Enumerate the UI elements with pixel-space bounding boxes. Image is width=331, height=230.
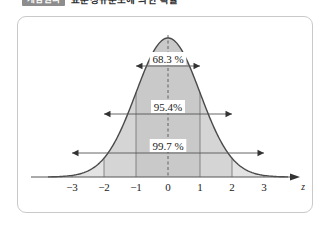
figure-card: 68.3 % 95.4% 99.7 % −3−2−10123 z (17, 16, 313, 213)
label-68-percent: 68.3 % (152, 53, 183, 65)
tick-label-4: 1 (197, 181, 203, 193)
tick-label-3: 0 (165, 181, 171, 193)
x-axis-tick-labels: −3−2−10123 (66, 181, 267, 193)
heading-badge: 개념원리 (22, 0, 65, 6)
tick-label-5: 2 (229, 181, 235, 193)
label-95-percent: 95.4% (154, 101, 182, 113)
normal-distribution-chart: 68.3 % 95.4% 99.7 % −3−2−10123 z (18, 17, 312, 212)
tick-label-6: 3 (261, 181, 267, 193)
tick-label-2: −1 (130, 181, 142, 193)
x-axis-variable-label: z (300, 182, 305, 192)
label-99-percent: 99.7 % (152, 140, 183, 152)
tick-label-1: −2 (98, 181, 110, 193)
page-title: 표준정규분포에 의한 확률 (71, 0, 178, 6)
page-heading: 개념원리 표준정규분포에 의한 확률 (0, 0, 331, 7)
tick-label-0: −3 (66, 181, 78, 193)
